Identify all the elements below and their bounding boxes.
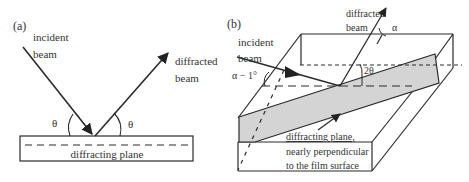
panel-b-incident-arrowhead (285, 66, 301, 78)
panel-a-incident-label-1: incident (33, 31, 68, 43)
panel-a-incident-beam (23, 47, 92, 134)
panel-b: (b) incident beam diffracted beam (227, 8, 462, 171)
panel-b-plane-label-3: to the film surface (286, 160, 360, 171)
panel-a-theta-right: θ (128, 118, 133, 130)
panel-b-two-theta: 2θ (364, 65, 374, 76)
panel-a-diffracted-label-2: beam (175, 72, 199, 84)
panel-b-diffracting-plane (239, 54, 439, 142)
panel-b-diffracted-label-2: beam (346, 22, 368, 33)
panel-a-diffracted-label-1: diffracted (175, 55, 218, 67)
panel-b-two-theta-arc (360, 64, 362, 76)
panel-b-label: (b) (227, 17, 241, 31)
panel-b-plane-label-1: diffracting plane, (286, 131, 355, 142)
panel-a-theta-left: θ (52, 117, 57, 129)
panel-a: (a) incident beam diffracted beam θ θ di… (13, 19, 218, 161)
panel-a-plane-label: diffracting plane (71, 148, 144, 160)
panel-a-theta-arc-right (114, 113, 121, 136)
panel-b-incident-label-1: incident (238, 36, 273, 48)
panel-a-label: (a) (13, 19, 26, 33)
panel-b-plane-label-2: nearly perpendicular (286, 146, 369, 157)
panel-b-diffracted-dash (377, 35, 382, 44)
panel-b-alpha: α (392, 22, 398, 33)
panel-b-diffracted-label-1: diffracted (346, 8, 385, 19)
panel-a-incident-label-2: beam (33, 48, 57, 60)
panel-a-theta-arc-left (69, 114, 73, 136)
panel-b-alpha-arc (379, 28, 386, 36)
panel-b-alpha-minus: α − 1° (232, 70, 257, 81)
diffraction-diagram: (a) incident beam diffracted beam θ θ di… (0, 0, 469, 182)
